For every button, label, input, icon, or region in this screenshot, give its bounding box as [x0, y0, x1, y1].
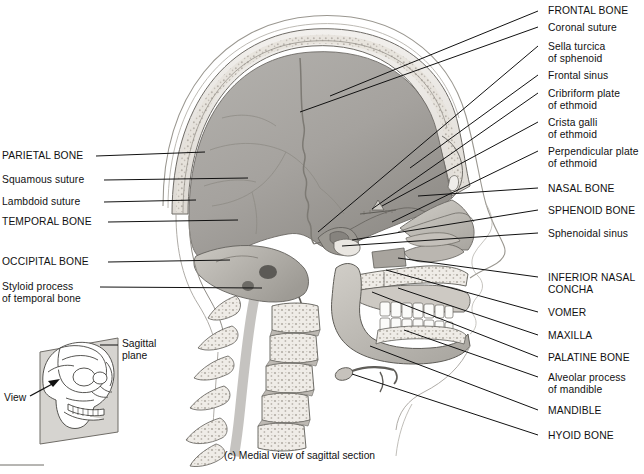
label-sella-turcica: Sella turcicaof sphenoid	[548, 41, 605, 64]
label-styloid-process: Styloid processof temporal bone	[2, 281, 81, 304]
label-view: View	[4, 392, 26, 404]
label-frontal-sinus: Frontal sinus	[548, 70, 608, 82]
label-parietal-bone: PARIETAL BONE	[2, 150, 83, 162]
label-sphenoid-bone: SPHENOID BONE	[548, 205, 635, 217]
figure-root: FRONTAL BONE Coronal suture Sella turcic…	[0, 0, 644, 474]
label-squamous-suture: Squamous suture	[2, 174, 84, 186]
label-perpendicular-plate: Perpendicular plateof ethmoid	[548, 146, 639, 169]
label-maxilla: MAXILLA	[548, 330, 592, 342]
label-cribriform-plate: Cribriform plateof ethmoid	[548, 88, 620, 111]
label-coronal-suture: Coronal suture	[548, 22, 617, 34]
figure-caption: (c) Medial view of sagittal section	[224, 450, 375, 461]
label-lambdoid-suture: Lambdoid suture	[2, 196, 80, 208]
label-alveolar-process: Alveolar processof mandible	[548, 372, 626, 395]
label-sphenoidal-sinus: Sphenoidal sinus	[548, 228, 628, 240]
label-mandible: MANDIBLE	[548, 405, 601, 417]
label-occipital-bone: OCCIPITAL BONE	[2, 256, 89, 268]
label-hyoid-bone: HYOID BONE	[548, 430, 614, 442]
label-sagittal-plane: Sagittalplane	[122, 338, 156, 361]
label-palatine-bone: PALATINE BONE	[548, 352, 630, 364]
label-inferior-nasal-concha: INFERIOR NASALCONCHA	[548, 272, 635, 295]
label-nasal-bone: NASAL BONE	[548, 183, 614, 195]
label-temporal-bone: TEMPORAL BONE	[2, 216, 92, 228]
label-frontal-bone: FRONTAL BONE	[548, 5, 628, 17]
label-crista-galli: Crista galliof ethmoid	[548, 117, 597, 140]
label-vomer: VOMER	[548, 307, 586, 319]
